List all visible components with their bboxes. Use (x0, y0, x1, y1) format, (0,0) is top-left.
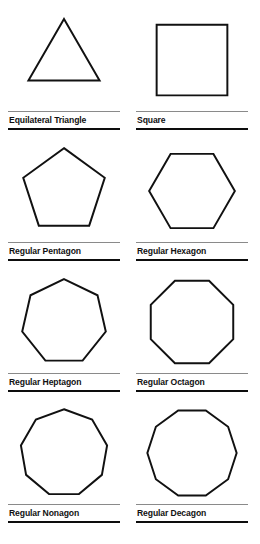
polygon-figure (8, 270, 120, 373)
polygon-figure (8, 8, 120, 111)
polygon-label: Regular Nonagon (8, 508, 120, 521)
polygon-cell: Regular Decagon (136, 401, 248, 532)
caption-rule-bottom (8, 521, 120, 523)
polygon-figure (136, 401, 248, 504)
caption-rule-bottom (8, 259, 120, 261)
triangle-icon-outline (28, 18, 99, 80)
caption-rule-bottom (8, 390, 120, 392)
polygon-figure (8, 139, 120, 242)
polygon-label: Regular Heptagon (8, 377, 120, 390)
polygon-figure (136, 270, 248, 373)
polygon-cell: Regular Octagon (136, 270, 248, 401)
heptagon-icon-outline (22, 279, 106, 360)
pentagon-icon-outline (23, 148, 105, 226)
caption-rule-bottom (136, 521, 248, 523)
polygon-label: Regular Pentagon (8, 246, 120, 259)
polygon-cell: Regular Pentagon (8, 139, 120, 270)
caption-rule-top (136, 373, 248, 374)
decagon-icon (136, 403, 248, 503)
polygon-cell: Square (136, 8, 248, 139)
octagon-icon-outline (151, 280, 233, 362)
caption-rule-top (136, 111, 248, 112)
caption-rule-top (8, 373, 120, 374)
caption-rule-bottom (136, 259, 248, 261)
polygon-cell: Equilateral Triangle (8, 8, 120, 139)
octagon-icon (136, 272, 248, 372)
hexagon-icon (136, 141, 248, 241)
polygon-label: Square (136, 115, 248, 128)
polygon-figure (8, 401, 120, 504)
polygon-reference-sheet: Equilateral TriangleSquareRegular Pentag… (0, 0, 260, 544)
caption-rule-bottom (136, 128, 248, 130)
nonagon-icon-outline (21, 409, 107, 494)
polygon-label: Regular Decagon (136, 508, 248, 521)
polygon-figure (136, 8, 248, 111)
nonagon-icon (8, 403, 120, 503)
square-icon-outline (157, 24, 228, 95)
polygon-cell: Regular Hexagon (136, 139, 248, 270)
pentagon-icon (8, 141, 120, 241)
polygon-label: Equilateral Triangle (8, 115, 120, 128)
caption-rule-bottom (8, 128, 120, 130)
decagon-icon-outline (147, 410, 236, 495)
caption-rule-bottom (136, 390, 248, 392)
polygon-grid: Equilateral TriangleSquareRegular Pentag… (8, 8, 252, 532)
caption-rule-top (8, 111, 120, 112)
square-icon (136, 10, 248, 110)
caption-rule-top (136, 242, 248, 243)
polygon-label: Regular Octagon (136, 377, 248, 390)
hexagon-icon-outline (149, 153, 235, 227)
triangle-icon (8, 10, 120, 110)
polygon-cell: Regular Nonagon (8, 401, 120, 532)
polygon-label: Regular Hexagon (136, 246, 248, 259)
caption-rule-top (136, 504, 248, 505)
caption-rule-top (8, 504, 120, 505)
polygon-cell: Regular Heptagon (8, 270, 120, 401)
caption-rule-top (8, 242, 120, 243)
polygon-figure (136, 139, 248, 242)
heptagon-icon (8, 272, 120, 372)
